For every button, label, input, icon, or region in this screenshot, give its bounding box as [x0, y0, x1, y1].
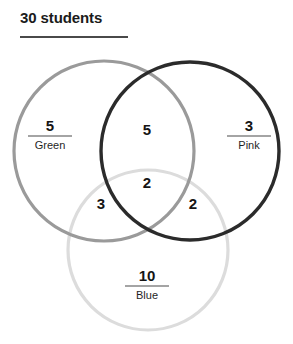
region-blue-only-rule: [125, 286, 169, 287]
region-pink-only: 3 Pink: [227, 117, 271, 152]
region-blue-only-label: Blue: [125, 289, 169, 302]
region-green-pink-blue: 2: [143, 174, 151, 191]
region-pink-only-value: 3: [227, 117, 271, 134]
region-green-only: 5 Green: [28, 117, 72, 152]
region-pink-only-label: Pink: [227, 139, 271, 152]
venn-diagram: 5 Green 3 Pink 10 Blue 5 3 2 2: [0, 0, 293, 344]
region-green-blue-value: 3: [97, 195, 105, 212]
region-green-pink-blue-value: 2: [143, 174, 151, 191]
region-pink-only-rule: [227, 136, 271, 137]
region-pink-blue-value: 2: [189, 195, 197, 212]
region-green-only-rule: [28, 136, 72, 137]
region-blue-only: 10 Blue: [125, 267, 169, 302]
circle-blue: [68, 170, 228, 330]
region-green-only-label: Green: [28, 139, 72, 152]
region-green-blue: 3: [97, 195, 105, 212]
region-blue-only-value: 10: [125, 267, 169, 284]
region-green-only-value: 5: [28, 117, 72, 134]
region-green-pink-value: 5: [143, 121, 151, 138]
region-pink-blue: 2: [189, 195, 197, 212]
region-green-pink: 5: [143, 121, 151, 138]
